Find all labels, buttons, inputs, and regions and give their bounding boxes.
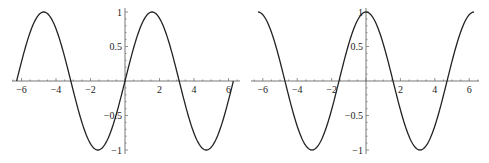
plot-sine: −6−4−2246−1−0.50.51 (12, 7, 240, 156)
x-tick-label: −4 (292, 84, 303, 95)
y-tick-label: −0.5 (345, 110, 363, 121)
x-tick-label: 2 (157, 84, 162, 95)
x-tick-label: −6 (16, 84, 27, 95)
y-tick-label: −1 (352, 145, 363, 156)
y-tick-label: 0.5 (351, 41, 364, 52)
x-tick-label: −2 (85, 84, 96, 95)
x-tick-label: −6 (257, 84, 268, 95)
y-tick-label: 0.5 (110, 41, 123, 52)
x-tick-label: −4 (51, 84, 62, 95)
chart-canvas: −6−4−2246−1−0.50.51 −6−4−2246−1−0.50.51 (0, 0, 489, 163)
y-tick-label: 1 (117, 7, 122, 18)
y-tick-label: −0.5 (104, 110, 122, 121)
x-tick-label: 4 (432, 84, 437, 95)
x-tick-label: 2 (398, 84, 403, 95)
x-tick-label: 6 (467, 84, 472, 95)
plot-cosine: −6−4−2246−1−0.50.51 (251, 7, 479, 156)
x-tick-label: 4 (192, 84, 197, 95)
y-tick-label: −1 (111, 145, 122, 156)
